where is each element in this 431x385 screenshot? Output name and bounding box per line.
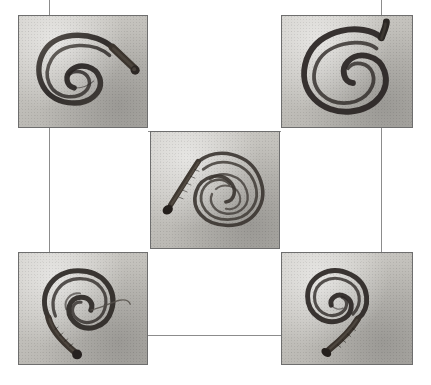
connector-bottom-horizontal [148, 335, 281, 336]
whip-illustration [19, 253, 147, 364]
bottom-left-whip-photo [18, 252, 148, 365]
connector-top-right-upward [381, 0, 382, 15]
center-whip-photo [150, 131, 280, 249]
whip-illustration [19, 16, 147, 127]
connector-left-column [49, 128, 50, 252]
whip-handle [161, 162, 199, 217]
connector-top-left-upward [49, 0, 50, 15]
whip-illustration [282, 253, 412, 364]
whip-illustration [151, 132, 279, 248]
whip-handle [320, 319, 358, 359]
whip-handle [381, 22, 386, 39]
whip-photo-montage-figure: Coiled bullwhip with handle extending to… [0, 0, 431, 385]
connector-right-column [381, 128, 382, 252]
top-left-whip-photo [18, 15, 148, 128]
bottom-right-whip-photo [281, 252, 413, 365]
whip-handle [113, 48, 140, 75]
whip-illustration [282, 16, 412, 127]
top-right-whip-photo [281, 15, 413, 128]
